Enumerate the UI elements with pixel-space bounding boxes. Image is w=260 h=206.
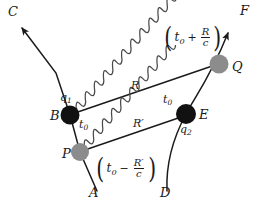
wave-label-R: R: [131, 80, 139, 91]
t0-sub-2: 0: [167, 98, 172, 107]
physics-diagram-canvas: C F A D B P E Q q1 q2 R R′ t0 t0 ( t0 + …: [0, 0, 260, 206]
node-E-circle[interactable]: [176, 104, 196, 124]
formula-advanced-operator: +: [187, 32, 198, 43]
formula-retarded-term: t0: [107, 162, 117, 176]
upper-wave-group: [49, 0, 213, 112]
wave-label-R-prime: R′: [133, 118, 144, 129]
endpoint-label-A: A: [89, 186, 98, 199]
formula-retarded-denominator: c: [134, 168, 144, 180]
node-label-B: B: [50, 109, 60, 122]
formula-advanced-body: t0 + R c: [174, 27, 213, 49]
node-label-P: P: [62, 147, 71, 160]
endpoint-label-D: D: [160, 186, 170, 199]
formula-advanced-time: ( t0 + R c ): [163, 24, 223, 51]
endpoint-label-F: F: [240, 4, 249, 17]
charge-q1-subscript: 1: [67, 96, 72, 105]
formula-advanced-denominator: c: [201, 37, 211, 49]
node-Q-circle[interactable]: [210, 55, 229, 74]
time-label-t0-near-E: t0: [163, 94, 172, 107]
time-label-t0-below-B: t0: [79, 119, 88, 132]
formula-retarded-numerator: R′: [132, 158, 146, 169]
node-P-circle[interactable]: [71, 143, 89, 161]
charge-label-q1: q1: [60, 92, 72, 105]
formula-retarded-close-paren: ): [148, 155, 156, 182]
formula-retarded-term-sub: 0: [111, 166, 116, 176]
formula-retarded-fraction: R′ c: [132, 158, 146, 180]
upper-wave-path: [49, 0, 213, 112]
formula-retarded-body: t0 − R′ c: [106, 158, 147, 180]
t0-sub-1: 0: [83, 123, 88, 132]
charge-q2-base: q: [180, 123, 187, 136]
formula-advanced-open-paren: (: [164, 24, 172, 51]
node-label-E: E: [199, 108, 209, 121]
formula-advanced-numerator: R: [200, 27, 212, 38]
charge-label-q2: q2: [180, 124, 192, 137]
formula-retarded-operator: −: [119, 163, 130, 174]
formula-advanced-term: t0: [175, 31, 185, 45]
formula-advanced-fraction: R c: [200, 27, 212, 49]
charge-q1-base: q: [60, 91, 67, 104]
charge-q2-subscript: 2: [187, 128, 192, 137]
formula-advanced-close-paren: ): [214, 24, 222, 51]
node-label-Q: Q: [232, 60, 243, 73]
formula-retarded-time: ( t0 − R′ c ): [95, 155, 157, 182]
formula-advanced-term-sub: 0: [179, 35, 184, 45]
endpoint-label-C: C: [8, 5, 18, 18]
formula-retarded-open-paren: (: [96, 155, 104, 182]
node-B-circle[interactable]: [61, 106, 80, 125]
